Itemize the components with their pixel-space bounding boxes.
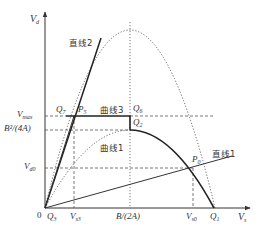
x-tick-vs0-sub: s0 xyxy=(192,216,197,222)
curve1-right-solid xyxy=(130,130,214,208)
point-p0-sub: 0 xyxy=(198,159,201,165)
x-tick-vs3: Vs3 xyxy=(70,212,81,222)
x-tick-b-2a: B/(2A) xyxy=(116,212,140,221)
x-tick-q3: Q3 xyxy=(47,212,57,222)
diagram-canvas xyxy=(0,0,262,230)
y-tick-b2-4a: B²/(4A) xyxy=(4,124,31,133)
point-p5: P5 xyxy=(78,105,87,115)
x-tick-q1: Q1 xyxy=(210,212,220,222)
line2-label: 直线2 xyxy=(69,39,92,48)
point-q6: Q6 xyxy=(133,104,143,114)
x-tick-q3-sub: 3 xyxy=(54,216,57,222)
point-p0: P0 xyxy=(192,155,201,165)
y-tick-vmax: Vmax xyxy=(17,110,33,120)
curve1-label: 曲线1 xyxy=(100,144,123,153)
y-tick-vmax-sub: max xyxy=(23,114,33,120)
y-axis-label-sub: d xyxy=(36,19,39,25)
line1 xyxy=(45,156,232,208)
line1-label: 直线1 xyxy=(212,150,235,159)
point-q2: Q2 xyxy=(133,118,143,128)
curve3-label: 曲线3 xyxy=(100,106,123,115)
point-q6-sub: 6 xyxy=(140,108,143,114)
y-tick-vd0-sub: d0 xyxy=(30,166,36,172)
x-tick-vs3-sub: s3 xyxy=(76,216,81,222)
line-to-p5 xyxy=(45,116,74,208)
point-q7: Q7 xyxy=(56,105,66,115)
x-tick-vs0: Vs0 xyxy=(186,212,197,222)
x-axis-label-sub: s xyxy=(244,217,246,223)
origin-label: 0 xyxy=(37,211,42,220)
point-q2-sub: 2 xyxy=(140,122,143,128)
y-axis-label: Vd xyxy=(30,14,39,25)
y-tick-vd0: Vd0 xyxy=(24,162,36,172)
point-q7-sub: 7 xyxy=(63,109,66,115)
point-p5-sub: 5 xyxy=(84,109,87,115)
x-tick-q1-sub: 1 xyxy=(217,216,220,222)
x-axis-label: Vs xyxy=(238,212,246,223)
curve3 xyxy=(66,116,130,130)
